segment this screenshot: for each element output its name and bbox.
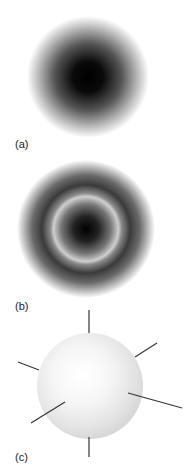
panel-label-c: (c) xyxy=(15,451,28,463)
panel-b-density xyxy=(17,160,155,298)
axis-upper-right xyxy=(135,343,157,357)
panel-label-b: (b) xyxy=(15,300,28,312)
figure-canvas xyxy=(0,0,188,475)
panel-a-density xyxy=(27,16,149,138)
axis-left xyxy=(18,362,39,370)
panel-label-a: (a) xyxy=(15,138,28,150)
panel-c-sphere xyxy=(18,310,182,457)
